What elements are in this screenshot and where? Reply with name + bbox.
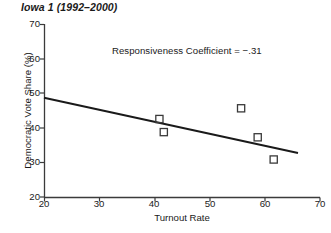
y-axis-ticks [40,25,44,198]
data-point-marker [160,129,167,136]
plot-area [0,0,331,233]
data-point-marker [238,105,245,112]
data-point-marker [270,156,277,163]
regression-line [44,98,298,153]
data-point-marker [254,134,261,141]
chart-figure: Iowa 1 (1992–2000) Responsiveness Coeffi… [0,0,331,233]
data-point-markers [156,105,278,163]
